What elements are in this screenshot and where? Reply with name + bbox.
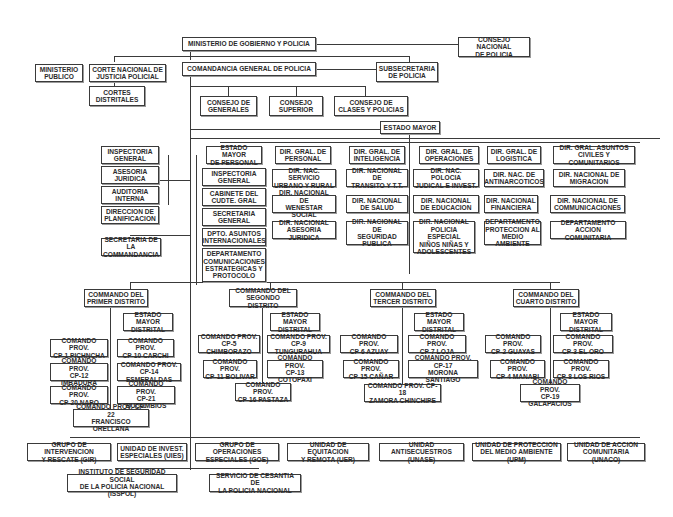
dir-item-box: DIR. NACIONAL DE EDUCACION (413, 195, 479, 213)
comando-prov-box: COMANDO PROV. CP-3 EL ORO (553, 335, 613, 353)
comando-prov-box: COMANDO PROV. CP-4 MANABI (490, 360, 545, 378)
unidad-unase-box: UNIDAD ANTISECUESTROS (UNASE) (379, 443, 464, 461)
comando-prov-box: COMANDO PROV. CP-22 FRANCISCO ORELLANA (73, 409, 149, 427)
dir-gral-inteligencia-box: DIR. GRAL. DE INTELIGENCIA (349, 146, 405, 164)
dir-gral-operaciones-box: DIR. GRAL. DE OPERACIONES (419, 146, 479, 164)
dir-item-box: DIR. NAC. POLOCIA JUDICAL E INVEST. (413, 169, 479, 187)
estado-mayor-box: ESTADO MAYOR (380, 121, 440, 134)
dir-item-box: DIR. NACIONAL DE COMMUNICACIONES (550, 195, 625, 213)
connector (70, 437, 640, 438)
comando-prov-box: COMANDO PROV. CP-19 GALAPACIOS (520, 384, 580, 402)
connector (550, 305, 551, 385)
isspol-box: INSTITUTO DE SEGURIDAD SOCIAL DE LA POLI… (67, 474, 177, 492)
ministerio-box: MINISTERIO DE GOBIERNO Y POLICIA (182, 37, 316, 51)
dir-gral-asuntos-civiles-box: DIR. GRAL. ASUNTOS CIVILES Y COMUNITARIO… (553, 146, 635, 164)
consejo-clases-box: CONSEJO DE CLASES Y POLICIAS (334, 96, 408, 116)
consejo-superior-box: CONSEJO SUPERIOR (269, 96, 323, 116)
comando-prov-box: COMANDO PROV. CP-20 NAPO (50, 386, 108, 404)
emp-item-box: DEPARTAMENTO COMUNICACIONES ESTRATEGICAS… (202, 248, 266, 282)
connector (190, 138, 660, 139)
comando-prov-box: COMANDO PROV. CP-5 CHIMBORAZO (198, 335, 260, 353)
auditoria-interna-box: AUDITORIA INTERNA (101, 186, 159, 204)
connector (409, 134, 410, 274)
unidad-goe-box: GRUPO DE OPERACIONES ESPECIALES (GOE) (195, 443, 279, 461)
comando-prov-box: COMANDO PROV. CP-18 ZAMORA CHINCHIPE (364, 384, 441, 402)
consejo-generales-box: CONSEJO DE GENERALES (200, 96, 257, 116)
comando-prov-box: COMANDO PROV. CP-12 IMBADURA (50, 363, 108, 381)
comando-prov-box: COMANDO PROV. CP-16 PASTAZA (235, 383, 291, 401)
dir-item-box: DIR. NACIONAL DE SALUD (346, 195, 408, 213)
secretaria-comandancia-box: SECRETARIA DE LA COMMANDANCIA (101, 238, 161, 256)
distrito-3-head: COMMANDO DEL TERCER DISTRITO (370, 289, 436, 307)
comando-prov-box: COMANDO PROV. CP-9 TUNGURAHUA (267, 335, 330, 353)
comando-prov-box: COMANDO PROV. CP-6 AZUAY (340, 335, 398, 353)
comando-prov-box: COMANDO PROV. CP-1 PICHNCHA (50, 339, 108, 357)
org-chart: MINISTERIO DE GOBIERNO Y POLICIA CONSEJO… (0, 0, 673, 517)
connector (402, 305, 403, 385)
estado-mayor-distrital-box: ESTADO MAYOR DISTRITAL (414, 313, 464, 331)
distrito-2-head: COMMANDO DEL SEGONDO DISTRITO (229, 289, 297, 307)
cortes-distritales-box: CORTES DISTRITALES (89, 86, 145, 106)
connector (160, 180, 190, 181)
comando-prov-box: COMANDO PROV. CP-15 CAÑAR (343, 360, 399, 378)
main-trunk (190, 76, 191, 470)
inspectoria-general-box: INSPECTORIA GENERAL (101, 146, 159, 164)
dir-item-box: DIR. NACIONAL POLICIA ESPECIAL NIÑOS NIÑ… (413, 221, 475, 253)
comando-prov-box: COMANDO PROV. CP-21 BUCUMBIOS (117, 386, 175, 404)
comandancia-box: COMANDANCIA GENERAL DE POLICIA (182, 62, 316, 76)
connector (196, 155, 197, 285)
comando-prov-box: COMANDO PROV. CP-10 CARCHI (117, 339, 174, 357)
corte-nacional-box: CORTE NACIONAL DE JUSTICIA POLICIAL (89, 64, 166, 82)
dir-gral-personal-box: DIR. GRAL. DE PERSONAL (275, 146, 331, 164)
distrito-1-head: COMMANDO DEL PRIMER DISTRITO (84, 289, 148, 307)
comando-prov-box: COMANDO PROV. CP-14 ESMERALDAS (117, 363, 181, 381)
emp-head-box: ESTADO MAYOR DE PERSONAL (206, 146, 262, 164)
comando-prov-box: COMANDO PROV. CP-8 LOS RIOS (553, 360, 609, 378)
emp-item-box: DPTO. ASUNTOS INTERNACIONALES (202, 228, 266, 246)
unidad-unaco-box: UNIDAD DE ACCION COMUNITARIA (UNACO) (567, 443, 645, 461)
dir-item-box: DIR. NACIONAL DE SEGURIDAD PUBLICA (346, 221, 408, 245)
connector (316, 69, 376, 70)
servicio-cesantia-box: SERVICIO DE CESANTIA DE LA POLICIA NACIO… (209, 474, 301, 492)
ministerio-publico-box: MINISTERIO PUBLICO (35, 64, 83, 82)
comando-prov-box: COMANDO PROV. CP-2 GUAYAS (485, 335, 541, 353)
estado-mayor-distrital-box: ESTADO MAYOR DISTRITAL (560, 313, 612, 331)
dir-item-box: DEPARTAMENTO ACCION COMUNITARIA (550, 221, 626, 239)
emp-item-box: SECRETARIA GENERAL (202, 208, 266, 226)
consejo-nacional-box: CONSEJO NACIONAL DE POLICIA (458, 37, 530, 57)
connector (190, 86, 366, 87)
dir-item-box: DIR. NAC. SERVICIO URBANO Y RURAL (272, 169, 336, 187)
dir-item-box: DIR. NACIONAL DE WENESTAR SOCIAL (272, 195, 336, 213)
emp-item-box: CABINETE DEL CUDTE. GRAL (202, 188, 266, 206)
connector (110, 305, 111, 415)
asesoria-juridica-box: ASESORIA JURIDICA (101, 166, 159, 184)
estado-mayor-distrital-box: ESTADO MAYOR DISTRITAL (270, 313, 320, 331)
dir-item-box: DIR. NACIONAL DE TRANSITO Y T.T. (346, 169, 408, 187)
direccion-planificacion-box: DIRECCION DE PLANIFICACION (101, 206, 159, 224)
subsecretaria-box: SUBSECRETARIA DE POLICIA (376, 62, 438, 82)
connector (190, 129, 380, 130)
estado-mayor-distrital-box: ESTADO MAYOR DISTRITAL (123, 313, 173, 331)
unidad-gir-box: GRUPO DE INTERVENCION Y RESCATE (GIR) (27, 443, 111, 461)
unidad-uies-box: UNIDAD DE INVEST. ESPECIALES (UIES) (117, 443, 187, 461)
emp-item-box: INSPECTORIA GENERAL (202, 168, 266, 186)
dir-item-box: DIR. NACIONAL ASESORIA JURIDICA (272, 221, 336, 239)
comando-prov-box: COMANDO PROV. CP-17 MORONA SANTIAGO (408, 360, 478, 378)
unidad-uer-box: UNIDAD DE EQUITACION Y REMOTA (UER) (287, 443, 369, 461)
connector (130, 282, 560, 283)
connector (114, 56, 115, 62)
comando-prov-box: COMANDO PROV. CP-13 COTOPAXI (267, 360, 323, 378)
unidad-upm-box: UNIDAD DE PROTECCION DEL MEDIO AMBIENTE … (472, 443, 561, 461)
dir-item-box: DEPARTAMENTO PROTECCION AL MEDIO AMBIENT… (484, 221, 541, 245)
dir-gral-logistica-box: DIR. GRAL. DE LOGISTICA (487, 146, 541, 164)
connector (190, 50, 191, 60)
comando-prov-box: COMANDO PROV. CP-11 BOLIVAR (203, 360, 257, 378)
dir-item-box: DIR. NAC. DE ANTINARCOTICOS (484, 169, 544, 187)
connector (114, 56, 410, 57)
connector (262, 305, 263, 385)
dir-item-box: DIR. NACIONAL DE MIGRACION (553, 169, 625, 187)
distrito-4-head: COMMANDO DEL CUARTO DISTRITO (513, 289, 579, 307)
dir-item-box: DIR. NACIONAL FINANCIERA (484, 195, 538, 213)
comando-prov-box: COMANDO PROV. CP-7 LOJA (408, 335, 466, 353)
